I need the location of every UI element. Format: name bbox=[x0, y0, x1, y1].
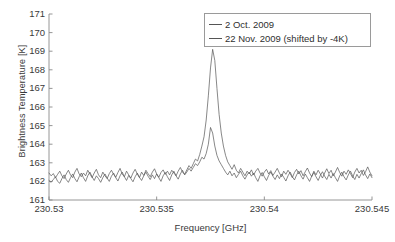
series-line-1 bbox=[49, 49, 372, 178]
legend-item-series-1: 2 Oct. 2009 bbox=[209, 17, 274, 31]
legend-label-series-2: 22 Nov. 2009 (shifted by -4K) bbox=[225, 33, 348, 44]
chart-figure: Brightness Temperature [K] 1611621631641… bbox=[0, 0, 395, 242]
legend-line-sample-icon bbox=[209, 38, 222, 39]
legend-item-series-2: 22 Nov. 2009 (shifted by -4K) bbox=[209, 31, 348, 45]
legend: 2 Oct. 2009 22 Nov. 2009 (shifted by -4K… bbox=[204, 13, 371, 47]
legend-line-sample-icon bbox=[209, 24, 222, 25]
legend-label-series-1: 2 Oct. 2009 bbox=[225, 19, 274, 30]
